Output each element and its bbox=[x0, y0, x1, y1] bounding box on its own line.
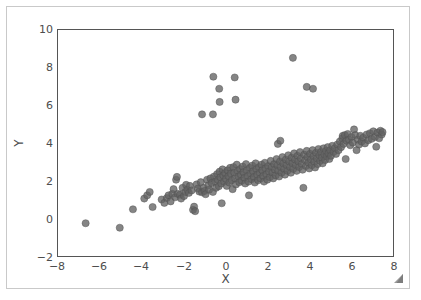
x-axis-title: X bbox=[57, 273, 394, 285]
scatter-point bbox=[146, 188, 153, 195]
scatter-point bbox=[209, 111, 216, 118]
ytick-label: 0 bbox=[27, 214, 53, 225]
y-axis-title: Y bbox=[13, 123, 25, 163]
scatter-point bbox=[210, 73, 217, 80]
scatter-point bbox=[232, 96, 239, 103]
scatter-point bbox=[231, 74, 238, 81]
scatter-point bbox=[192, 208, 199, 215]
scatter-points-group bbox=[82, 54, 386, 231]
xtick-label: −4 bbox=[133, 261, 149, 272]
scatter-point bbox=[289, 54, 296, 61]
figure-panel: 10 8 6 4 2 0 −2 −8 −6 −4 −2 0 2 4 6 8 X … bbox=[6, 6, 410, 289]
ytick-label: 10 bbox=[27, 24, 53, 35]
scatter-point bbox=[379, 129, 386, 136]
scatter-point bbox=[173, 173, 180, 180]
scatter-point bbox=[342, 155, 349, 162]
plot-axes-frame bbox=[57, 29, 394, 257]
ytick-label: 8 bbox=[27, 62, 53, 73]
scatter-point bbox=[373, 143, 380, 150]
scatter-point bbox=[149, 203, 156, 210]
xtick-label: 8 bbox=[391, 261, 398, 272]
xtick-label: 0 bbox=[223, 261, 230, 272]
scatter-point bbox=[245, 192, 252, 199]
scatter-point bbox=[198, 111, 205, 118]
scatter-point bbox=[216, 85, 223, 92]
ytick-label: 6 bbox=[27, 100, 53, 111]
scatter-point bbox=[216, 98, 223, 105]
xtick-label: −6 bbox=[91, 261, 107, 272]
ytick-label: 2 bbox=[27, 176, 53, 187]
ytick-label: 4 bbox=[27, 138, 53, 149]
scatter-point bbox=[218, 200, 225, 207]
resize-grip-icon[interactable] bbox=[392, 272, 404, 284]
xtick-label: −2 bbox=[176, 261, 192, 272]
scatter-point bbox=[116, 224, 123, 231]
scatter-point bbox=[309, 85, 316, 92]
scatter-point bbox=[82, 220, 89, 227]
xtick-label: −8 bbox=[49, 261, 65, 272]
xtick-label: 6 bbox=[349, 261, 356, 272]
xtick-label: 4 bbox=[307, 261, 314, 272]
scatter-plot-canvas bbox=[58, 30, 393, 256]
scatter-point bbox=[300, 184, 307, 191]
xtick-label: 2 bbox=[265, 261, 272, 272]
scatter-point bbox=[129, 206, 136, 213]
scatter-point bbox=[277, 137, 284, 144]
